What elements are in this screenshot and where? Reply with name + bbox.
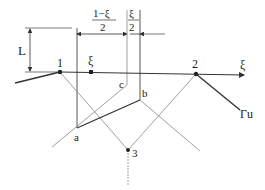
point-2-label: 2: [192, 57, 198, 71]
dim-left-numerator: 1−ξ: [93, 7, 110, 20]
left-influence-line: [15, 72, 60, 83]
gamma-u-label: Γu: [240, 107, 253, 121]
influence-line-diagram: L 1−ξ 2 ξ 2 1 ξ 2 ξ a b c 3 Γu: [0, 0, 265, 190]
line-a-b: [77, 100, 140, 128]
xi-point-label: ξ: [88, 54, 94, 68]
point-3: [126, 148, 130, 152]
point-c-label: c: [119, 78, 124, 90]
point-b-label: b: [142, 87, 148, 99]
l-dimension: [25, 28, 72, 72]
xi-axis-label: ξ: [240, 58, 246, 72]
xi-axis: [60, 72, 244, 75]
right-influence-line: [196, 74, 240, 110]
point-2: [194, 72, 198, 76]
dim-right-denominator: 2: [129, 21, 135, 33]
xi-point: [89, 70, 93, 74]
dim-right-numerator: ξ: [129, 7, 134, 20]
dim-left-denominator: 2: [100, 21, 106, 33]
point-a-label: a: [74, 131, 79, 143]
l-label: L: [18, 43, 26, 58]
point-1: [58, 70, 62, 74]
point-3-label: 3: [132, 147, 138, 159]
top-dimension: [77, 20, 165, 34]
point-1-label: 1: [57, 56, 63, 70]
